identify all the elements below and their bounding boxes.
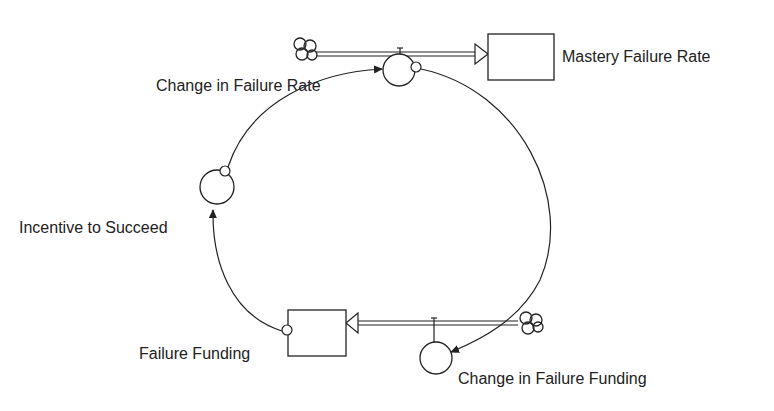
link-origin-dot <box>411 62 421 72</box>
link-mastery-to-funding-change <box>421 69 551 352</box>
link-funding-to-incentive <box>213 210 282 331</box>
aux-incentive-to-succeed[interactable] <box>200 170 234 204</box>
label-incentive-to-succeed: Incentive to Succeed <box>19 219 168 237</box>
flow-pipe-bottom <box>346 313 518 342</box>
stock-mastery-failure-rate[interactable] <box>488 34 554 80</box>
link-origin-dot <box>220 166 230 176</box>
link-origin-dot <box>282 325 292 335</box>
label-failure-funding: Failure Funding <box>139 345 250 363</box>
valve-change-in-failure-funding[interactable] <box>420 342 452 374</box>
label-change-in-failure-rate: Change in Failure Rate <box>156 77 321 95</box>
valve-change-in-failure-rate[interactable] <box>383 54 415 86</box>
stock-failure-funding[interactable] <box>288 310 346 356</box>
label-change-in-failure-funding: Change in Failure Funding <box>458 370 647 388</box>
source-cloud-icon-bottom <box>520 312 543 334</box>
label-mastery-failure-rate: Mastery Failure Rate <box>562 48 711 66</box>
source-cloud-icon-top <box>294 38 317 60</box>
